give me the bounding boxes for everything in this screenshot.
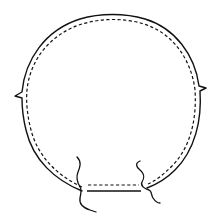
pattern-diagram bbox=[0, 0, 217, 221]
seam-line-dashed bbox=[27, 20, 196, 188]
cut-line-outline bbox=[15, 15, 206, 192]
pattern-svg bbox=[0, 0, 217, 221]
right-break-line bbox=[137, 161, 160, 203]
left-break-line bbox=[77, 157, 96, 212]
